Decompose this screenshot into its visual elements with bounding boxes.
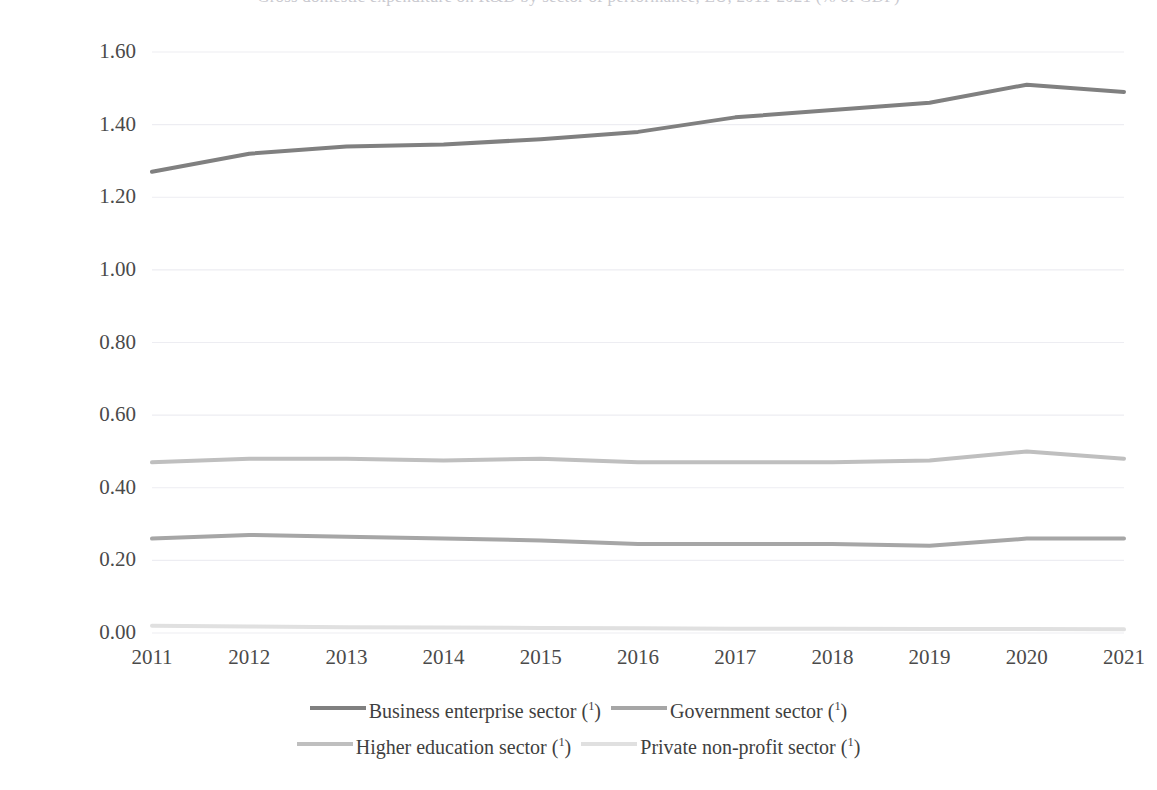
x-axis-tick-2013: 2013: [301, 645, 391, 669]
series-lines: [152, 85, 1124, 630]
legend-government-sector[interactable]: Government sector (1): [611, 695, 847, 722]
y-axis-tick-1.60: 1.60: [40, 41, 136, 62]
legend-private-non-profit-sector[interactable]: Private non-profit sector (1): [581, 731, 860, 758]
legend-label: Higher education sector (1): [356, 731, 572, 758]
x-axis-tick-2020: 2020: [982, 645, 1072, 669]
y-axis-tick-1.40: 1.40: [40, 114, 136, 135]
chart-legend: Business enterprise sector (1)Government…: [0, 690, 1157, 762]
legend-swatch-icon: [310, 706, 366, 710]
series-line-business-enterprise-sector: [152, 85, 1124, 172]
y-axis-tick-1.00: 1.00: [40, 259, 136, 280]
legend-swatch-icon: [611, 706, 667, 710]
y-axis-tick-0.80: 0.80: [40, 332, 136, 353]
x-axis-tick-2012: 2012: [204, 645, 294, 669]
legend-swatch-icon: [581, 742, 637, 746]
y-axis-tick-0.60: 0.60: [40, 404, 136, 425]
legend-business-enterprise-sector[interactable]: Business enterprise sector (1): [310, 695, 601, 722]
x-axis-tick-labels: 2011201220132014201520162017201820192020…: [152, 645, 1124, 673]
legend-label: Business enterprise sector (1): [369, 695, 601, 722]
footnote-marker: 1: [558, 735, 564, 749]
legend-row-2: Higher education sector (1)Private non-p…: [0, 726, 1157, 762]
x-axis-tick-2021: 2021: [1079, 645, 1157, 669]
legend-label: Government sector (1): [670, 695, 847, 722]
series-line-government-sector: [152, 535, 1124, 546]
legend-row-1: Business enterprise sector (1)Government…: [0, 690, 1157, 726]
y-axis-tick-0.20: 0.20: [40, 549, 136, 570]
y-axis-tick-1.20: 1.20: [40, 186, 136, 207]
legend-label: Private non-profit sector (1): [640, 731, 860, 758]
footnote-marker: 1: [834, 699, 840, 713]
series-line-higher-education-sector: [152, 451, 1124, 462]
x-axis-tick-2017: 2017: [690, 645, 780, 669]
x-axis-tick-2016: 2016: [593, 645, 683, 669]
x-axis-tick-2014: 2014: [399, 645, 489, 669]
y-axis-tick-0.00: 0.00: [40, 622, 136, 643]
legend-higher-education-sector[interactable]: Higher education sector (1): [297, 731, 572, 758]
page-title: Gross domestic expenditure on R&D by sec…: [0, 0, 1157, 7]
series-line-private-non-profit-sector: [152, 626, 1124, 630]
x-axis-tick-2019: 2019: [885, 645, 975, 669]
x-axis-tick-2011: 2011: [107, 645, 197, 669]
x-axis-tick-2018: 2018: [787, 645, 877, 669]
legend-swatch-icon: [297, 742, 353, 746]
footnote-marker: 1: [847, 735, 853, 749]
x-axis-tick-2015: 2015: [496, 645, 586, 669]
chart-title-clipped: Gross domestic expenditure on R&D by sec…: [0, 0, 1157, 13]
y-axis-tick-0.40: 0.40: [40, 477, 136, 498]
plot-area: [152, 52, 1124, 633]
plot-svg: [152, 52, 1124, 633]
footnote-marker: 1: [588, 699, 594, 713]
chart-container: Gross domestic expenditure on R&D by sec…: [0, 0, 1157, 790]
y-axis-tick-labels: 1.601.401.201.000.800.600.400.200.00: [24, 0, 136, 790]
